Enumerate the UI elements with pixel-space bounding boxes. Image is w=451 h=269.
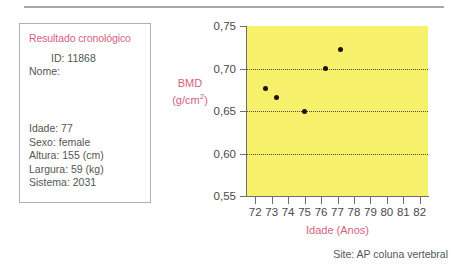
y-axis-tick [240, 26, 247, 27]
y-axis-tick-label: 0,75 [214, 20, 236, 32]
x-axis-tick [321, 197, 322, 204]
patient-id: ID: 11868 [51, 52, 96, 64]
x-axis-tick-label: 78 [348, 206, 361, 218]
y-axis-tick-label: 0,60 [214, 148, 236, 160]
site-note: Site: AP coluna vertebral [248, 248, 448, 260]
patient-name: Nome: [29, 65, 60, 77]
x-axis-tick-label: 72 [249, 206, 262, 218]
patient-details: Idade: 77 Sexo: female Altura: 155 (cm) … [29, 122, 104, 190]
patient-sex: Sexo: female [29, 136, 104, 150]
x-axis-tick-label: 79 [364, 206, 377, 218]
x-axis-tick [305, 197, 306, 204]
x-axis-tick [403, 197, 404, 204]
x-axis-tick-label: 77 [331, 206, 344, 218]
y-axis-tick [240, 69, 247, 70]
x-axis-tick [288, 197, 289, 204]
y-axis-tick-label: 0,55 [214, 190, 236, 202]
x-axis-tick-label: 73 [265, 206, 278, 218]
patient-info-panel: Resultado cronológico ID: 11868 Nome: Id… [19, 23, 151, 203]
chronological-result-page: Resultado cronológico ID: 11868 Nome: Id… [0, 0, 451, 269]
gridline-y [247, 111, 428, 112]
x-axis-tick [354, 197, 355, 204]
y-axis-tick [240, 111, 247, 112]
gridline-y [247, 154, 428, 155]
y-axis-label-line1: BMD [178, 77, 202, 89]
data-point [274, 95, 279, 100]
data-point [302, 109, 307, 114]
x-axis-tick [255, 197, 256, 204]
patient-age: Idade: 77 [29, 122, 104, 136]
x-axis-tick [420, 197, 421, 204]
y-axis-tick [240, 196, 247, 197]
y-axis-tick-label: 0,70 [214, 63, 236, 75]
y-axis-tick-label: 0,65 [214, 105, 236, 117]
y-axis-tick [240, 154, 247, 155]
x-axis-tick [370, 197, 371, 204]
system-id: Sistema: 2031 [29, 176, 104, 190]
x-axis-line [240, 196, 429, 197]
x-axis-tick-label: 82 [413, 206, 426, 218]
x-axis-tick-label: 81 [397, 206, 410, 218]
y-axis-label-units: (g/cm2) [172, 94, 208, 106]
header-divider [24, 6, 444, 8]
panel-title: Resultado cronológico [29, 32, 131, 44]
x-axis-tick-label: 76 [315, 206, 328, 218]
y-axis-label: BMD (g/cm2) [156, 77, 224, 107]
patient-height: Altura: 155 (cm) [29, 149, 104, 163]
x-axis-tick [387, 197, 388, 204]
patient-weight: Largura: 59 (kg) [29, 163, 104, 177]
x-axis-tick [338, 197, 339, 204]
x-axis-tick-label: 80 [380, 206, 393, 218]
x-axis-label: Idade (Anos) [247, 224, 428, 236]
gridline-y [247, 69, 428, 70]
x-axis-tick-label: 74 [282, 206, 295, 218]
x-axis-tick [272, 197, 273, 204]
x-axis-tick-label: 75 [298, 206, 311, 218]
